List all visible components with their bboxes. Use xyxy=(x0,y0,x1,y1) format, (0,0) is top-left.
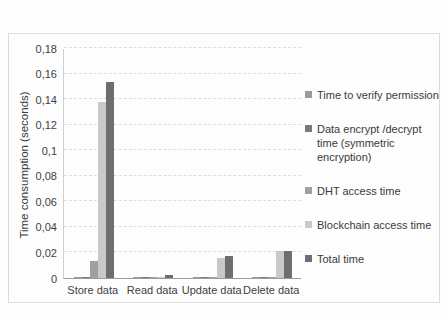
bar-update-data-s1 xyxy=(201,277,209,278)
bar-update-data-s4 xyxy=(225,256,233,278)
legend: Time to verify permissionData encrypt /d… xyxy=(305,88,439,266)
legend-marker-icon xyxy=(305,255,312,262)
y-tick-label: 0 xyxy=(11,273,57,286)
legend-label: Blockchain access time xyxy=(317,218,431,232)
chart-page: Time consumption (seconds) 00,020,040,06… xyxy=(0,0,445,320)
bar-store-data-s3 xyxy=(98,102,106,278)
legend-item-s0: Time to verify permission xyxy=(305,88,439,102)
bar-store-data-s1 xyxy=(82,277,90,278)
bar-read-data-s4 xyxy=(165,275,173,278)
y-tick-label: 0,16 xyxy=(11,68,57,81)
legend-label: Data encrypt /decrypt time (symmetric en… xyxy=(317,122,439,164)
y-tick-label: 0,02 xyxy=(11,247,57,260)
gridline xyxy=(64,73,301,74)
bar-store-data-s4 xyxy=(106,82,114,278)
legend-marker-icon xyxy=(305,221,312,228)
y-tick-label: 0,12 xyxy=(11,119,57,132)
legend-item-s3: Blockchain access time xyxy=(305,218,439,232)
y-tick-label: 0,04 xyxy=(11,221,57,234)
bar-update-data-s2 xyxy=(209,277,217,278)
plot-area xyxy=(63,49,301,279)
bar-read-data-s1 xyxy=(141,277,149,278)
legend-label: Total time xyxy=(317,252,364,266)
chart-frame: Time consumption (seconds) 00,020,040,06… xyxy=(8,33,440,303)
bar-delete-data-s0 xyxy=(252,277,260,278)
legend-marker-icon xyxy=(305,125,312,132)
bar-delete-data-s4 xyxy=(284,251,292,278)
bar-delete-data-s2 xyxy=(268,277,276,278)
bar-delete-data-s1 xyxy=(260,277,268,278)
legend-item-s1: Data encrypt /decrypt time (symmetric en… xyxy=(305,122,439,164)
legend-marker-icon xyxy=(305,91,312,98)
legend-label: Time to verify permission xyxy=(317,88,439,102)
y-tick-label: 0,14 xyxy=(11,94,57,107)
x-axis-category-labels: Store dataRead dataUpdate dataDelete dat… xyxy=(63,283,301,299)
y-tick-label: 0,1 xyxy=(11,145,57,158)
gridline xyxy=(64,47,301,48)
bar-read-data-s0 xyxy=(133,277,141,278)
bar-update-data-s3 xyxy=(217,258,225,278)
bar-delete-data-s3 xyxy=(276,251,284,278)
bar-store-data-s0 xyxy=(74,277,82,278)
bar-read-data-s2 xyxy=(149,277,157,278)
legend-label: DHT access time xyxy=(317,184,401,198)
y-axis-tick-labels: 00,020,040,060,080,10,120,140,160,18 xyxy=(9,49,60,279)
y-tick-label: 0,08 xyxy=(11,170,57,183)
bar-update-data-s0 xyxy=(193,277,201,278)
legend-marker-icon xyxy=(305,187,312,194)
y-tick-label: 0,06 xyxy=(11,196,57,209)
legend-item-s2: DHT access time xyxy=(305,184,439,198)
bar-read-data-s3 xyxy=(157,277,165,278)
gridline xyxy=(64,98,301,99)
x-category-label: Delete data xyxy=(231,283,311,297)
legend-item-s4: Total time xyxy=(305,252,439,266)
bar-store-data-s2 xyxy=(90,261,98,278)
y-tick-label: 0,18 xyxy=(11,43,57,56)
